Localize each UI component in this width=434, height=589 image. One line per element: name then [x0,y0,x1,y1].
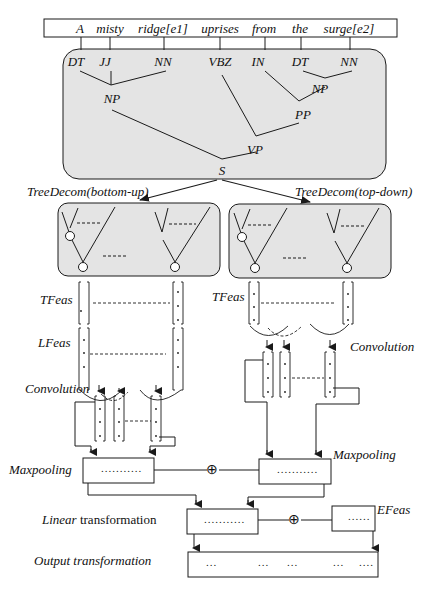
phrase-node-s: S [219,164,226,177]
label-tfeas-right: TFeas [212,290,245,303]
output-vector: ... [206,557,217,568]
conv-arrows-right [267,340,330,347]
label-maxpooling-left: Maxpooling [9,463,72,476]
phrase-node-np: NP [104,92,121,105]
arrow-to-bottom-up [140,180,217,200]
maxpool-right-vector: ........... [277,464,318,475]
output-vector: ... [287,557,298,568]
word: the [292,22,308,35]
label-treedecom-bottom-up: TreeDecom(bottom-up) [27,185,149,198]
pos-tag: DT [68,55,85,68]
label-lfeas: LFeas [38,336,71,349]
output-vector: ... [258,557,269,568]
phrase-node-vp: VP [247,143,263,156]
label-linear-transformation: Linear transformation [42,513,156,526]
label-convolution-left: Convolution [25,382,89,395]
label-maxpooling-right: Maxpooling [333,448,396,461]
phrase-node-pp: PP [295,108,311,121]
word: misty [96,22,123,35]
concat-icon: ⊕ [288,513,300,527]
word: A [76,22,84,35]
label-efeas: EFeas [377,503,410,516]
label-output-transformation: Output transformation [34,554,151,567]
label-convolution-right: Convolution [350,340,414,353]
maxpool-linear-connectors [88,483,324,504]
pos-tag: IN [252,55,265,68]
pos-tag: NN [154,55,171,68]
output-vector: ... [333,557,344,568]
pos-tag: JJ [99,55,111,68]
concat-icon: ⊕ [206,463,218,477]
output-vector: .... [359,557,374,568]
pos-tag: NN [340,55,357,68]
label-linear-italic: Linear [42,512,77,527]
phrase-node-np: NP [312,82,329,95]
label-linear-rest: transformation [77,512,157,527]
label-tfeas-left: TFeas [40,293,73,306]
left-feature-vectors [79,282,183,441]
word-entity-2: surge[e2] [324,22,375,35]
linear-vector: ........... [204,514,245,525]
word-entity-1: ridge[e1] [138,22,188,35]
maxpool-left-vector: ........... [101,463,142,474]
conv-arrows-left [99,385,156,391]
right-maxpool-connectors [245,360,359,454]
label-treedecom-top-down: TreeDecom(top-down) [295,185,412,198]
word: uprises [201,22,239,35]
word: from [252,22,276,35]
pos-tag: DT [292,55,309,68]
pos-tag: VBZ [208,55,231,68]
efeas-vector: ...... [348,511,371,522]
right-feature-vectors [249,282,353,397]
left-maxpool-connectors [75,402,175,452]
word-tag-links [81,37,350,50]
